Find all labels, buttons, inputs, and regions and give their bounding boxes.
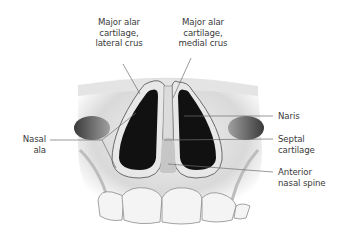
label-major-alar-cartilage-lateral-crus: Major alar cartilage, lateral crus [86,17,152,49]
label-naris: Naris [278,111,300,122]
left-orbit [74,116,110,140]
right-orbit [228,116,264,140]
label-anterior-nasal-spine: Anterior nasal spine [278,167,326,188]
label-nasal-ala: Nasal ala [10,134,46,155]
label-major-alar-cartilage-medial-crus: Major alar cartilage, medial crus [170,17,236,49]
nose-anatomy-figure: Major alar cartilage, lateral crus Major… [0,0,344,239]
label-septal-cartilage: Septal cartilage [278,134,315,155]
